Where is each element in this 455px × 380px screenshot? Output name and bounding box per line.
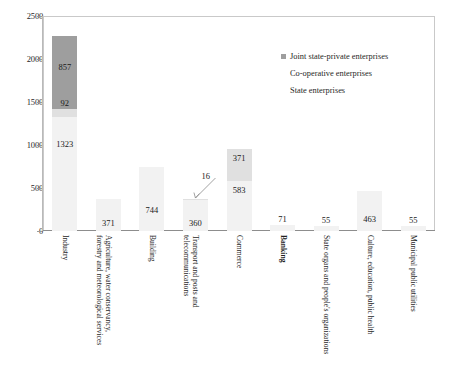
bar-value-label: 463 [350, 214, 390, 224]
bar-column[interactable] [401, 16, 426, 231]
x-axis-category-label: State organs and people's organizations [322, 235, 331, 355]
bar-value-label: 55 [393, 215, 433, 225]
bar-value-label: 360 [175, 218, 215, 228]
legend-swatch-icon [281, 54, 286, 59]
x-axis-category-label: Culture, education, public health [365, 235, 374, 355]
bar-segment[interactable] [314, 226, 339, 231]
legend-item[interactable]: Joint state-private enterprises [281, 48, 388, 65]
chart-legend: Joint state-private enterprisesCo-operat… [281, 48, 388, 99]
legend-swatch-icon [281, 88, 286, 93]
bar-value-label: 857 [45, 62, 85, 72]
y-axis: 05001000150020002500 [0, 0, 43, 380]
bar-segment[interactable] [401, 226, 426, 231]
bar-value-label: 371 [88, 218, 128, 228]
bar-column[interactable] [52, 16, 77, 231]
legend-swatch-icon [281, 71, 286, 76]
bar-column[interactable] [183, 16, 208, 231]
bar-value-label: 55 [306, 215, 346, 225]
y-axis-tick-mark [37, 231, 42, 232]
legend-label: Co-operative enterprises [290, 69, 372, 78]
bar-stack [357, 191, 382, 231]
bar-column[interactable] [96, 16, 121, 231]
figure-container: 05001000150020002500 8579213233717441636… [0, 0, 455, 380]
bar-stack [314, 226, 339, 231]
x-axis-category-label: Industry [60, 235, 69, 355]
bar-column[interactable] [139, 16, 164, 231]
bar-value-label: 71 [263, 214, 303, 224]
bar-value-label: 583 [219, 185, 259, 195]
bar-value-label: 1323 [45, 139, 85, 149]
bar-value-callout-label: 16 [201, 171, 231, 181]
x-axis-category-label: Commerce [234, 235, 243, 355]
bar-value-label: 371 [219, 153, 259, 163]
x-axis-category-label: Municipal public utilities [409, 235, 418, 355]
bar-segment[interactable] [139, 167, 164, 231]
bar-stack [401, 226, 426, 231]
x-axis-category-labels: IndustryAgriculture, water conservancy, … [43, 233, 435, 363]
bar-value-label: 92 [45, 98, 85, 108]
legend-item[interactable]: Co-operative enterprises [281, 65, 388, 82]
x-axis-category-label: Banking [278, 235, 287, 355]
bar-segment[interactable] [52, 109, 77, 117]
bar-segment[interactable] [270, 225, 295, 231]
bar-value-label: 744 [132, 205, 172, 215]
x-axis-category-label: Building [147, 235, 156, 355]
bar-stack [139, 167, 164, 231]
bar-segment[interactable] [52, 117, 77, 231]
bar-segment[interactable] [357, 191, 382, 231]
bar-column[interactable] [227, 16, 252, 231]
bar-stack [270, 225, 295, 231]
x-axis-category-label: Transport and posts and telecommunicatio… [182, 235, 199, 355]
legend-label: Joint state-private enterprises [290, 52, 388, 61]
x-axis-category-label: Agriculture, water conservancy, forestry… [95, 235, 112, 355]
legend-label: State enterprises [290, 86, 345, 95]
legend-item[interactable]: State enterprises [281, 82, 388, 99]
